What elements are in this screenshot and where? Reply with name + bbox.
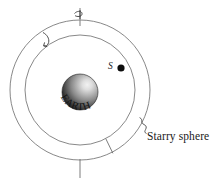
star-label: S [108, 62, 113, 72]
celestial-pole-icon [75, 10, 83, 19]
starry-sphere-label: Starry sphere [147, 131, 209, 143]
diagram-canvas: EARTH [0, 0, 223, 183]
star-point [117, 64, 124, 71]
astronomy-diagram: EARTH [0, 0, 223, 183]
rotation-direction-arrow-icon [43, 33, 49, 47]
radial-tick-mark [106, 139, 113, 154]
